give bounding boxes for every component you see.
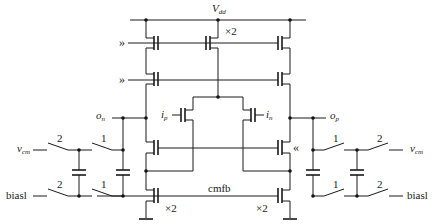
sc-cmfb-left — [33, 118, 130, 198]
switch-phase-label: 1 — [333, 133, 339, 144]
pmos-current-source-left — [146, 20, 158, 62]
switch-phase-label: 2 — [377, 179, 383, 190]
x2-top-label: ×2 — [225, 26, 237, 37]
folding-nodes — [144, 169, 292, 173]
nmos-sink-left — [139, 171, 158, 219]
bias-arrow-icon: « — [293, 142, 299, 153]
output-on-label: on — [96, 110, 105, 125]
vcm-right-label: vcm — [410, 143, 423, 158]
vdd-label: Vdd — [212, 3, 226, 18]
x2-bottom-left-label: ×2 — [165, 203, 177, 214]
pmos-cascode-right — [278, 62, 290, 118]
bias-arrow-icon: » — [119, 74, 125, 85]
switch-phase-label: 2 — [57, 133, 63, 144]
switch-phase-label: 2 — [57, 179, 63, 190]
input-in-label: in — [266, 109, 273, 124]
output-node-on — [112, 116, 148, 120]
nmos-sink-right — [278, 171, 297, 219]
switch-phase-label: 2 — [377, 133, 383, 144]
nmos-cascode-right — [278, 118, 290, 171]
pmos-current-source-right — [278, 20, 290, 62]
bias-left-label: biasl — [6, 190, 27, 201]
cmfb-label: cmfb — [208, 183, 231, 194]
switch-phase-label: 1 — [101, 179, 107, 190]
output-node-op — [288, 116, 326, 120]
x2-bottom-right-label: ×2 — [256, 203, 268, 214]
switch-phase-label: 1 — [101, 133, 107, 144]
sc-cmfb-right — [306, 118, 403, 198]
switch-phase-label: 1 — [333, 179, 339, 190]
output-op-label: op — [330, 110, 339, 125]
vcm-left-label: vcm — [17, 143, 30, 158]
input-pair — [172, 95, 264, 171]
bias-arrow-icon: » — [119, 37, 125, 48]
input-ip-label: ip — [161, 109, 168, 124]
pmos-current-source-center — [206, 20, 218, 97]
nmos-cascode-left — [146, 118, 158, 171]
bias-right-label: biasl — [407, 190, 428, 201]
pmos-cascode-left — [146, 62, 158, 118]
